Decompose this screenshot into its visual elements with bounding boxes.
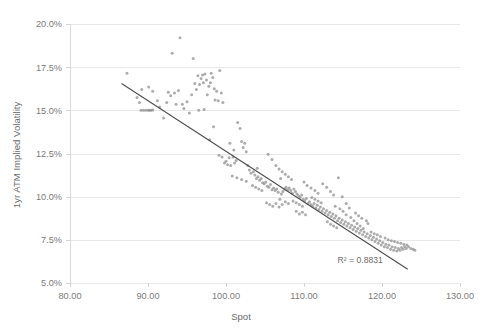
data-point — [235, 176, 238, 179]
data-point — [245, 150, 248, 153]
y-axis-tick-label: 7.5% — [41, 235, 62, 245]
data-point — [313, 189, 316, 192]
data-point — [292, 199, 295, 202]
data-point — [205, 79, 208, 82]
data-point — [373, 240, 376, 243]
x-axis-tick-label: 100.00 — [212, 291, 240, 301]
data-point — [360, 217, 363, 220]
data-point — [260, 177, 263, 180]
data-point — [265, 201, 268, 204]
data-point — [203, 108, 206, 111]
data-point — [337, 176, 340, 179]
data-point — [125, 72, 128, 75]
data-point — [281, 203, 284, 206]
data-point — [151, 108, 154, 111]
data-point — [197, 109, 200, 112]
data-point — [289, 189, 292, 192]
data-point — [215, 90, 218, 93]
data-point — [236, 121, 239, 124]
data-point — [342, 223, 345, 226]
data-point — [345, 202, 348, 205]
data-point — [362, 227, 365, 230]
data-point — [317, 199, 320, 202]
data-point — [190, 93, 193, 96]
data-point — [393, 240, 396, 243]
data-point — [264, 180, 267, 183]
data-point — [361, 233, 364, 236]
data-point — [221, 101, 224, 104]
data-point — [288, 187, 291, 190]
data-point — [285, 186, 288, 189]
data-point — [254, 186, 257, 189]
data-point — [267, 186, 270, 189]
data-point — [363, 231, 366, 234]
data-point — [391, 245, 394, 248]
data-point — [232, 149, 235, 152]
x-axis-tick-labels: 80.0090.00100.00110.00120.00130.00 — [59, 291, 475, 301]
data-point — [305, 197, 308, 200]
y-axis-tick-label: 17.5% — [36, 63, 62, 73]
data-point — [271, 158, 274, 161]
data-point — [358, 231, 361, 234]
data-point — [334, 214, 337, 217]
data-point — [171, 52, 174, 55]
chart-canvas: 80.0090.00100.00110.00120.00130.00 5.0%7… — [0, 0, 482, 330]
data-point — [280, 193, 283, 196]
data-point — [209, 81, 212, 84]
data-point — [388, 244, 391, 247]
data-point — [195, 88, 198, 91]
data-point — [333, 217, 336, 220]
data-point — [267, 153, 270, 156]
data-point — [378, 239, 381, 242]
data-point — [341, 195, 344, 198]
x-axis-tick-label: 120.00 — [368, 291, 396, 301]
data-point — [325, 209, 328, 212]
data-point — [317, 192, 320, 195]
data-point — [326, 220, 329, 223]
chart-annotations: R² = 0.8831 — [338, 255, 383, 265]
data-point — [177, 89, 180, 92]
data-point — [384, 243, 387, 246]
data-point — [240, 178, 243, 181]
data-point — [329, 190, 332, 193]
data-point — [348, 206, 351, 209]
data-point — [365, 219, 368, 222]
data-point — [331, 212, 334, 215]
data-point — [278, 198, 281, 201]
data-point — [235, 159, 238, 162]
data-point — [364, 235, 367, 238]
data-point — [278, 206, 281, 209]
data-point — [332, 225, 335, 228]
data-point — [386, 246, 389, 249]
data-point — [138, 101, 141, 104]
data-point — [198, 83, 201, 86]
data-point — [226, 163, 229, 166]
r-squared-label: R² = 0.8831 — [338, 255, 383, 265]
data-point — [221, 155, 224, 158]
data-point — [384, 237, 387, 240]
data-point — [405, 244, 408, 247]
data-point — [274, 202, 277, 205]
data-point — [328, 211, 331, 214]
data-point — [369, 234, 372, 237]
data-point — [213, 87, 216, 90]
data-point — [308, 200, 311, 203]
data-point — [332, 193, 335, 196]
data-point — [320, 201, 323, 204]
y-axis-tick-label: 15.0% — [36, 106, 62, 116]
data-point — [140, 88, 143, 91]
data-point — [389, 248, 392, 251]
data-point — [402, 243, 405, 246]
data-point — [370, 238, 373, 241]
data-point — [394, 246, 397, 249]
data-point — [387, 238, 390, 241]
data-point — [257, 187, 260, 190]
y-axis-tick-label: 10.0% — [36, 192, 62, 202]
data-point — [373, 232, 376, 235]
data-point — [295, 210, 298, 213]
data-point — [284, 173, 287, 176]
data-point — [188, 111, 191, 114]
data-points — [125, 36, 416, 252]
data-point — [279, 177, 282, 180]
data-point — [298, 203, 301, 206]
